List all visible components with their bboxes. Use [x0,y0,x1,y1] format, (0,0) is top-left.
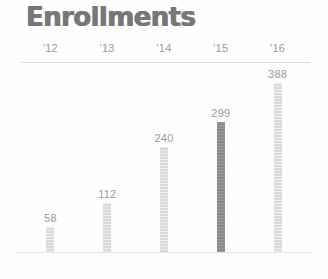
bar-2015 [217,122,225,252]
year-label-2013: '13 [79,42,136,58]
year-label-2016: '16 [249,42,306,58]
enrollments-bar-chart: Enrollments '12 '13 '14 '15 '16 58 112 2… [0,0,328,279]
bar-value-2012: 58 [44,213,57,224]
bar-value-2015: 299 [211,108,230,119]
bar-value-2013: 112 [98,189,116,200]
bar-2013 [103,203,111,252]
chart-baseline [16,252,312,253]
bar-2012 [46,227,54,252]
bar-group-2013: 112 [79,66,136,252]
year-axis: '12 '13 '14 '15 '16 [22,42,306,58]
bar-group-2012: 58 [22,66,79,252]
chart-title: Enrollments [26,2,195,32]
year-label-2012: '12 [22,42,79,58]
bar-value-2016: 388 [268,69,287,80]
bar-group-2016: 388 [249,66,306,252]
plot-area: 58 112 240 299 388 [22,66,306,252]
year-label-2014: '14 [136,42,193,58]
bar-2016 [274,83,282,252]
bar-group-2014: 240 [136,66,193,252]
bar-value-2014: 240 [155,133,174,144]
axis-divider-rule [20,62,310,63]
bar-2014 [160,147,168,252]
bar-group-2015: 299 [192,66,249,252]
year-label-2015: '15 [192,42,249,58]
